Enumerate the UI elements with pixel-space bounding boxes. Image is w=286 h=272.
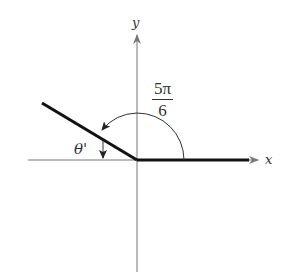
angle-diagram: y x 5π 6 θ' [0,0,286,272]
angle-label-numerator: 5π [152,80,173,100]
terminal-side [42,103,137,160]
angle-arc [102,113,184,160]
diagram-canvas [0,0,286,272]
reference-angle-label: θ' [74,142,87,157]
angle-label-denominator: 6 [152,100,173,119]
angle-label: 5π 6 [152,80,173,119]
x-axis-label: x [265,153,272,166]
y-axis-label: y [132,16,139,29]
